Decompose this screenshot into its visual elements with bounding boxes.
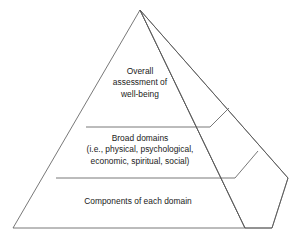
pyramid-graphic <box>0 0 299 248</box>
pyramid-diagram: Overall assessment of well-being Broad d… <box>0 0 299 248</box>
